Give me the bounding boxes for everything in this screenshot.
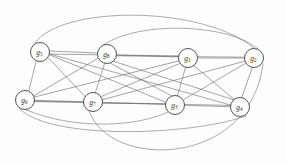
node-circle [179,49,198,68]
graph-edge [102,64,179,97]
graph-edge [103,28,258,49]
graph-node-g4[interactable]: g4 [231,98,250,117]
graph-edge [20,109,246,132]
node-circle [31,43,50,62]
graph-edge [242,67,253,97]
graph-edge [110,63,172,96]
graph-node-g3[interactable]: g3 [166,96,185,115]
node-circle [166,96,185,115]
graph-edge [35,15,254,48]
graph-edge [34,61,179,97]
graph-edge [49,54,230,105]
node-circle [84,93,103,112]
graph-edge [184,64,245,100]
graph-node-g5[interactable]: g5 [31,43,50,62]
graph-node-g2[interactable]: g2 [245,49,264,68]
edges-layer [18,15,263,150]
node-circle [16,91,35,110]
node-circle [231,98,250,117]
node-circle [98,45,117,64]
graph-edge [194,66,234,100]
graph-node-g7[interactable]: g7 [84,93,103,112]
node-circle [245,49,264,68]
graph-edge [29,61,36,90]
graph-node-g1[interactable]: g1 [179,49,198,68]
graph-figure: g1g2g3g4g5g6g7g8 [0,0,286,164]
graph-canvas: g1g2g3g4g5g6g7g8 [0,0,286,164]
graph-edge [50,51,98,53]
graph-node-g8[interactable]: g8 [98,45,117,64]
graph-node-g6[interactable]: g6 [16,91,35,110]
graph-edge [34,58,99,96]
graph-edge [95,63,104,92]
